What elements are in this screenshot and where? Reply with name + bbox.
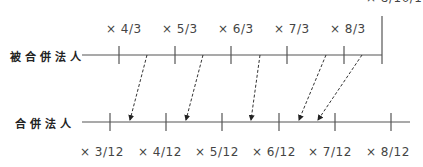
merging-corporation-label: 合併法人 xyxy=(15,115,75,131)
bottom-tick-label: × 5/12 xyxy=(195,145,239,159)
bottom-tick-label: × 6/12 xyxy=(252,145,296,159)
top-tick-label: × 4/3 xyxy=(106,22,142,36)
bottom-tick-label: × 4/12 xyxy=(138,145,182,159)
merged-corporation-label: 被合併法人 xyxy=(10,48,85,64)
bottom-tick-label: × 3/12 xyxy=(80,145,124,159)
top-tick-label: × 7/3 xyxy=(274,22,310,36)
bottom-tick-label: × 7/12 xyxy=(308,145,352,159)
bottom-tick-label: × 8/12 xyxy=(366,145,410,159)
top-end-label: × 8/10/1 xyxy=(366,0,423,5)
top-tick-label: × 6/3 xyxy=(218,22,254,36)
top-tick-label: × 5/3 xyxy=(162,22,198,36)
top-tick-label: × 8/3 xyxy=(330,22,366,36)
mapping-arrows xyxy=(130,55,362,120)
